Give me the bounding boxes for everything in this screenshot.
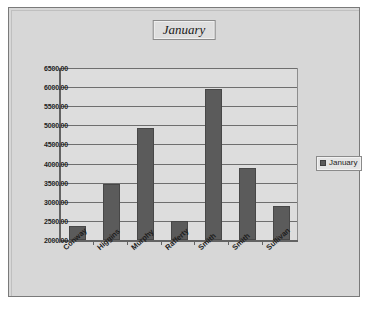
y-axis-tick-label: 5000.00 [20,122,68,129]
legend-swatch-january [320,160,326,166]
y-axis-tick-label: 6000.00 [20,84,68,91]
x-axis-tick-mark [161,240,162,245]
y-axis-tick-mark [53,125,57,126]
y-axis-tick-mark [53,87,57,88]
y-axis-tick-label: 4000.00 [20,161,68,168]
x-axis-tick-mark [262,240,263,245]
y-axis-tick-mark [53,144,57,145]
chart-title: January [163,23,206,36]
y-axis-tick-mark [53,240,57,241]
y-axis-tick-mark [53,106,57,107]
y-axis-tick-mark [53,202,57,203]
y-axis-tick-mark [53,68,57,69]
gridline [61,87,298,88]
y-axis-tick-mark [53,164,57,165]
y-axis-tick-label: 6500.00 [20,65,68,72]
gridline [61,106,298,107]
legend-label-january: January [329,159,357,167]
y-axis-tick-mark [53,221,57,222]
y-axis-tick-label: 2000.00 [20,237,68,244]
y-axis-tick-label: 3000.00 [20,199,68,206]
gridline [61,164,298,165]
plot-area [59,68,298,242]
chart-legend[interactable]: January [316,156,362,171]
gridline [61,125,298,126]
y-axis-tick-label: 4500.00 [20,141,68,148]
y-axis-tick-label: 3500.00 [20,180,68,187]
y-axis-tick-mark [53,183,57,184]
x-axis-tick-mark [194,240,195,245]
bar[interactable] [137,128,154,240]
gridline [61,202,298,203]
x-axis-tick-mark [127,240,128,245]
chart-frame: January January 6500.006000.005500.00500… [8,7,360,297]
gridline [61,68,298,69]
x-axis-tick-mark [228,240,229,245]
plot-right-edge [297,68,298,240]
x-axis-tick-mark [93,240,94,245]
y-axis-tick-label: 5500.00 [20,103,68,110]
bar[interactable] [205,89,222,240]
gridline [61,183,298,184]
chart-title-box: January [153,20,216,40]
gridline [61,144,298,145]
y-axis-tick-label: 2500.00 [20,218,68,225]
plot-inner [61,68,298,240]
bar[interactable] [239,168,256,240]
